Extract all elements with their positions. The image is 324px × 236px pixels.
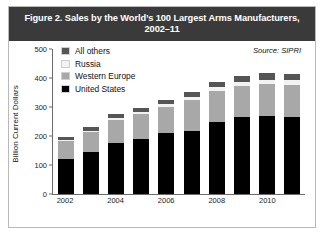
bar-segment	[133, 139, 149, 194]
bar-segment	[284, 117, 300, 194]
bar-segment	[158, 133, 174, 194]
bar-stack[interactable]	[234, 76, 250, 194]
bar-segment	[133, 114, 149, 139]
bar-segment	[58, 141, 74, 159]
bar-segment	[184, 131, 200, 194]
x-axis-tick-label: 2008	[208, 196, 224, 210]
bar-segment	[83, 132, 99, 152]
x-axis-tick-label	[133, 196, 149, 210]
bar-segment	[234, 117, 250, 194]
y-axis-tick-label: 400	[34, 74, 47, 83]
bar-segment	[209, 122, 225, 194]
y-axis-label-text: Billion Current Dollars	[11, 69, 20, 179]
bar-segment	[58, 159, 74, 194]
bar-segment	[259, 116, 275, 194]
bar-stack[interactable]	[259, 73, 275, 194]
figure-title-band: Figure 2. Sales by the World’s 100 Large…	[9, 7, 315, 41]
bar-segment	[259, 84, 275, 116]
bar-segment	[83, 152, 99, 194]
source-note: Source: SIPRI	[253, 46, 301, 55]
legend-swatch-icon	[61, 47, 70, 55]
y-axis-tick-label: 300	[34, 103, 47, 112]
x-axis-tick-label	[82, 196, 98, 210]
bar-segment	[108, 143, 124, 194]
y-axis-tick-label: 100	[34, 161, 47, 170]
bar-segment	[234, 86, 250, 117]
bar-stack[interactable]	[184, 92, 200, 194]
legend-item: Russia	[61, 58, 135, 71]
legend-swatch-icon	[61, 85, 70, 93]
legend-item-label: Western Europe	[75, 71, 135, 81]
x-axis-ticks: 2002 2004 2006 2008 2010	[52, 196, 305, 210]
y-axis-tick-label: 500	[34, 45, 47, 54]
x-axis-tick-label: 2002	[57, 196, 73, 210]
bar-segment	[184, 100, 200, 130]
legend-item: All others	[61, 45, 135, 58]
x-axis-tick-label	[284, 196, 300, 210]
legend-swatch-icon	[61, 60, 70, 68]
page-title: Figure 2. Sales by the World’s 100 Large…	[15, 13, 309, 36]
bar-stack[interactable]	[158, 100, 174, 194]
bar-stack[interactable]	[209, 82, 225, 194]
legend-swatch-icon	[61, 72, 70, 80]
figure-card: Figure 2. Sales by the World’s 100 Large…	[8, 6, 316, 228]
y-axis-ticks: 0100200300400500	[23, 49, 49, 194]
x-axis-tick-label	[183, 196, 199, 210]
y-axis-tick-label: 200	[34, 132, 47, 141]
chart-legend: All othersRussiaWestern EuropeUnited Sta…	[61, 45, 135, 95]
legend-item: Western Europe	[61, 70, 135, 83]
bar-segment	[108, 120, 124, 143]
bar-stack[interactable]	[83, 127, 99, 194]
y-axis-label: Billion Current Dollars	[11, 0, 23, 69]
legend-item-label: All others	[75, 46, 110, 56]
x-axis-tick-label	[234, 196, 250, 210]
chart-area: Billion Current Dollars 0100200300400500…	[9, 41, 315, 229]
bar-segment	[284, 85, 300, 117]
y-axis-tick-label: 0	[43, 190, 47, 199]
bar-stack[interactable]	[108, 114, 124, 194]
bar-segment	[284, 74, 300, 81]
legend-item: United States	[61, 83, 135, 96]
legend-item-label: United States	[75, 84, 125, 94]
bar-stack[interactable]	[133, 108, 149, 194]
bar-stack[interactable]	[284, 74, 300, 194]
bar-stack[interactable]	[58, 137, 74, 194]
x-axis-tick-label: 2010	[259, 196, 275, 210]
x-axis-tick-label: 2004	[107, 196, 123, 210]
legend-item-label: Russia	[75, 59, 101, 69]
x-axis-tick-label: 2006	[158, 196, 174, 210]
bar-segment	[209, 91, 225, 122]
bar-segment	[158, 107, 174, 133]
